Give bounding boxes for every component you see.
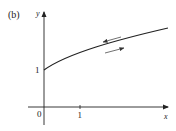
graph-figure: (b) y x 0 1 1 (0, 0, 176, 131)
left-arrow-icon (103, 37, 121, 42)
origin-label: 0 (37, 109, 42, 119)
right-arrow-icon (105, 48, 124, 53)
x-tick-label: 1 (78, 110, 83, 120)
panel-label: (b) (8, 9, 20, 21)
y-intercept-label: 1 (35, 65, 40, 75)
curve (44, 28, 168, 70)
y-axis-label: y (35, 9, 40, 18)
x-axis-label: x (163, 112, 168, 121)
